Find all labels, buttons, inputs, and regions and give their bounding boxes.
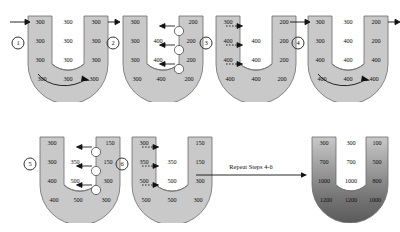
- descending-value: 400: [224, 57, 233, 63]
- ascending-value: 100: [373, 140, 382, 146]
- interstitium-value: 700: [347, 159, 356, 165]
- inflow-arrow-4: [290, 19, 310, 24]
- ascending-value: 200: [185, 76, 194, 82]
- ascending-value: 400: [370, 76, 379, 82]
- ascending-value: 300: [92, 19, 101, 25]
- step-badge-3: 3: [200, 37, 213, 50]
- repeat-steps-connector: Repeat Steps 4-6: [196, 160, 308, 184]
- ascending-value: 200: [278, 76, 287, 82]
- interstitium-value: 400: [344, 76, 353, 82]
- interstitium-value: 500: [71, 178, 80, 184]
- descending-value: 700: [320, 159, 329, 165]
- interstitium-value: 400: [252, 76, 261, 82]
- repeat-steps-label: Repeat Steps 4-6: [229, 163, 272, 170]
- descending-value: 300: [36, 38, 45, 44]
- ascending-value: 150: [196, 140, 205, 146]
- interstitium-value: 300: [64, 38, 73, 44]
- interstitium-value: 1000: [345, 178, 357, 184]
- descending-value: 300: [131, 38, 140, 44]
- step-badge-1: 1: [12, 37, 25, 50]
- interstitium-value: 400: [157, 76, 166, 82]
- interstitium-value: 350: [71, 159, 80, 165]
- pump-marker-icon: [91, 147, 100, 194]
- descending-value: 300: [36, 19, 45, 25]
- descending-value: 1200: [320, 197, 332, 203]
- descending-value: 300: [48, 140, 57, 146]
- step-badge-5: 5: [24, 158, 37, 171]
- descending-value: 400: [50, 197, 59, 203]
- descending-value: 400: [226, 76, 235, 82]
- ascending-value: 300: [90, 76, 99, 82]
- ascending-value: 200: [187, 38, 196, 44]
- interstitium-value: 300: [64, 76, 73, 82]
- descending-value: 300: [133, 76, 142, 82]
- ascending-value: 300: [102, 197, 111, 203]
- pump-marker-icon: [174, 26, 183, 73]
- interstitium-value: 300: [347, 140, 356, 146]
- descending-value: 400: [316, 57, 325, 63]
- interstitium-value: 500: [168, 178, 177, 184]
- step-badge-4: 4: [292, 37, 305, 50]
- ascending-value: 200: [372, 38, 381, 44]
- descending-value: 300: [48, 159, 57, 165]
- descending-value: 400: [318, 76, 327, 82]
- panel-step-4: 4 300 300 400 400 300 400 400 400 200 20…: [288, 10, 400, 102]
- ascending-value: 500: [373, 159, 382, 165]
- descending-value: 300: [140, 140, 149, 146]
- interstitium-value: 1200: [345, 197, 357, 203]
- interstitium-value: 400: [154, 38, 163, 44]
- ascending-value: 300: [92, 57, 101, 63]
- interstitium-value: 300: [64, 57, 73, 63]
- descending-value: 300: [131, 19, 140, 25]
- outflow-arrow-4: [388, 19, 400, 24]
- descending-value: 300: [131, 57, 140, 63]
- descending-value: 300: [36, 57, 45, 63]
- ascending-value: 300: [194, 197, 203, 203]
- interstitium-value: 300: [344, 19, 353, 25]
- ascending-value: 800: [373, 178, 382, 184]
- interstitium-value: 500: [74, 197, 83, 203]
- interstitium-value: 300: [64, 19, 73, 25]
- descending-value: 400: [48, 178, 57, 184]
- step-badge-2: 2: [107, 37, 120, 50]
- ascending-value: 200: [372, 19, 381, 25]
- interstitium-value: 400: [252, 57, 261, 63]
- interstitium-value: 500: [168, 197, 177, 203]
- ascending-value: 300: [92, 38, 101, 44]
- interstitium-value: 350: [168, 159, 177, 165]
- descending-value: 350: [140, 159, 149, 165]
- interstitium-value: 400: [344, 38, 353, 44]
- descending-value: 500: [140, 178, 149, 184]
- interstitium-value: 400: [154, 57, 163, 63]
- ascending-value: 1000: [369, 197, 381, 203]
- descending-value: 300: [38, 76, 47, 82]
- inflow-arrow-1: [10, 19, 30, 24]
- panel-final-gradient: 300 700 1000 1200 300 700 1000 1200 100 …: [296, 131, 400, 223]
- descending-value: 300: [224, 19, 233, 25]
- ascending-value: 200: [187, 57, 196, 63]
- descending-value: 400: [224, 38, 233, 44]
- interstitium-value: 400: [344, 57, 353, 63]
- descending-value: 300: [316, 19, 325, 25]
- ascending-value: 400: [372, 57, 381, 63]
- step-badge-6: 6: [116, 158, 129, 171]
- descending-value: 1000: [318, 178, 330, 184]
- descending-value: 300: [316, 38, 325, 44]
- descending-value: 500: [142, 197, 151, 203]
- descending-value: 300: [320, 140, 329, 146]
- interstitium-value: 400: [252, 38, 261, 44]
